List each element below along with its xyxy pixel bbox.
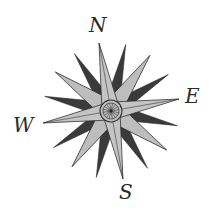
north-label: N — [89, 15, 107, 35]
east-label: E — [185, 86, 200, 106]
compass-rose-figure: N E S W — [0, 0, 215, 215]
compass-rose-icon — [0, 0, 215, 215]
south-label: S — [119, 182, 133, 202]
west-label: W — [13, 115, 34, 135]
